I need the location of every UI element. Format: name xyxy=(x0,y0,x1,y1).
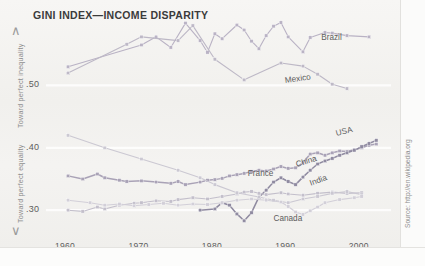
chart-svg xyxy=(46,20,391,232)
series-label-canada: Canada xyxy=(274,214,303,223)
y-tick-label: .30 xyxy=(26,204,39,214)
chart-page: GINI INDEX—INCOME DISPARITY ∧ Toward per… xyxy=(0,0,425,266)
series-label-brazil: Brazil xyxy=(321,33,341,42)
plot-area xyxy=(46,20,391,232)
arrow-down-icon: ∨ xyxy=(11,224,21,237)
series-usa xyxy=(66,142,378,186)
y-tick-label: .40 xyxy=(26,142,39,152)
source-note: Source: http://en.wikipedia.org xyxy=(404,139,411,228)
y-tick-label: .50 xyxy=(26,79,39,89)
series-label-france: France xyxy=(248,169,273,178)
y-axis-caption-equality: Toward perfect equality xyxy=(16,144,25,223)
bottom-margin xyxy=(0,247,425,266)
arrow-up-icon: ∧ xyxy=(11,24,21,37)
y-axis-caption-inequality: Toward perfect inequality xyxy=(16,43,25,128)
